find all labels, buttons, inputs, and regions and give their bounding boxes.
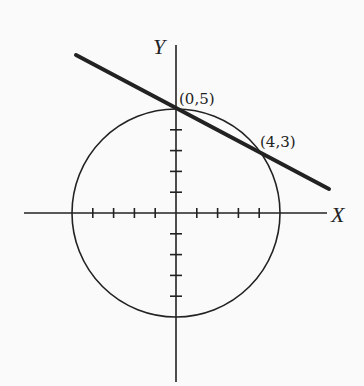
y-axis-label: Y xyxy=(153,34,168,59)
coordinate-diagram: Y X (0,5) (4,3) xyxy=(0,0,364,386)
x-axis-label: X xyxy=(330,202,346,227)
point-label-4-3: (4,3) xyxy=(260,133,296,151)
secant-line xyxy=(76,55,329,189)
point-label-0-5: (0,5) xyxy=(179,90,215,108)
